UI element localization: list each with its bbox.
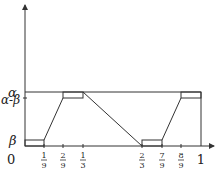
svg-text:9: 9 bbox=[60, 161, 65, 170]
svg-text:3: 3 bbox=[80, 161, 85, 170]
svg-text:2: 2 bbox=[139, 151, 144, 160]
svg-text:9: 9 bbox=[41, 161, 46, 170]
top-box-right bbox=[181, 92, 201, 98]
svg-text:8: 8 bbox=[178, 151, 183, 160]
rising-segment-right bbox=[162, 98, 181, 140]
beta-box-left bbox=[25, 140, 44, 146]
label-beta: β bbox=[8, 133, 17, 148]
rising-segment-left bbox=[44, 98, 63, 140]
svg-text:2: 2 bbox=[60, 151, 65, 160]
diagram-canvas: α α-β β 0 1 9 2 9 1 3 2 3 7 9 8 9 1 bbox=[0, 0, 219, 175]
beta-box-right bbox=[142, 140, 162, 146]
svg-text:9: 9 bbox=[178, 161, 183, 170]
label-alpha-minus-beta: α-β bbox=[1, 93, 20, 107]
svg-text:1: 1 bbox=[80, 151, 85, 160]
svg-text:7: 7 bbox=[159, 151, 164, 160]
svg-text:9: 9 bbox=[159, 161, 164, 170]
label-zero: 0 bbox=[7, 152, 15, 167]
svg-text:3: 3 bbox=[139, 161, 144, 170]
label-x-one: 1 bbox=[197, 152, 205, 167]
svg-text:1: 1 bbox=[41, 151, 46, 160]
top-box-left bbox=[63, 92, 83, 98]
x-fraction-labels: 1 9 2 9 1 3 2 3 7 9 8 9 bbox=[41, 151, 184, 170]
descending-segment bbox=[83, 92, 142, 146]
